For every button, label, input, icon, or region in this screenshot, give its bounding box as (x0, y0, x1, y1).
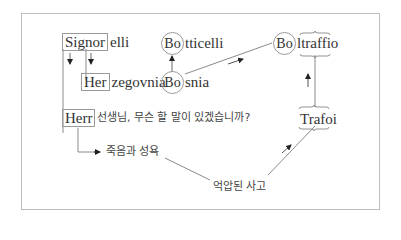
word-bosnia: Bosnia (161, 71, 209, 94)
suffix-elli: elli (110, 34, 129, 50)
suffix-tticelli: tticelli (185, 35, 223, 51)
word-signorelli: Signorelli (62, 33, 129, 51)
prefix-circle-bo-boltraffio: Bo (273, 32, 296, 55)
prefix-box-herr: Herr (62, 109, 95, 127)
herr-to-death-line (78, 128, 97, 152)
word-botticelli: Botticelli (161, 32, 223, 55)
suffix-zegovnia: zegovnia (112, 74, 166, 90)
herr-question-korean: 선생님, 무슨 할 말이 있겠습니까? (97, 111, 250, 125)
word-herr: Herr (62, 109, 97, 127)
death-to-repressed-line (165, 158, 210, 180)
word-boltraffio: Boltraffio (273, 32, 338, 55)
word-trafoi: Trafoi (300, 110, 337, 128)
suffix-ltraffio: ltraffio (297, 35, 338, 51)
word-herzegovina: Herzegovnia (81, 73, 166, 91)
label-repressed-thought: 억압된 사고 (213, 180, 267, 194)
prefix-circle-bo-botticelli: Bo (161, 32, 184, 55)
label-death-sexuality: 죽음과 성욕 (106, 145, 160, 159)
prefix-box-her: Her (81, 73, 110, 91)
prefix-box-signor: Signor (62, 33, 108, 51)
prefix-circle-bo-bosnia: Bo (161, 71, 184, 94)
bosnia-boltraffio-arrow (228, 59, 243, 64)
repressed-to-trafoi-line (268, 126, 315, 175)
suffix-snia: snia (185, 74, 209, 90)
